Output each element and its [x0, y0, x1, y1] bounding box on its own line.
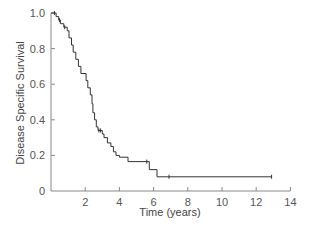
x-tick-label: 4: [116, 196, 122, 208]
x-tick-label: 10: [216, 196, 228, 208]
y-axis-title: Disease Specific Survival: [14, 41, 26, 165]
survival-curve: [51, 13, 272, 177]
x-tick-label: 14: [284, 196, 296, 208]
x-tick-label: 12: [250, 196, 262, 208]
kaplan-meier-chart: 00.20.40.60.81.0 2468101214 Time (years)…: [0, 0, 311, 229]
survival-step-line: [51, 13, 272, 177]
y-tick-label: 0: [39, 185, 45, 197]
y-tick-label: 0.8: [30, 43, 45, 55]
x-axis: 2468101214: [51, 187, 297, 208]
y-tick-label: 0.4: [30, 114, 45, 126]
x-tick-label: 2: [82, 196, 88, 208]
censor-marks: [54, 11, 271, 179]
y-tick-label: 1.0: [30, 7, 45, 19]
y-tick-label: 0.2: [30, 149, 45, 161]
y-tick-label: 0.6: [30, 78, 45, 90]
y-axis: 00.20.40.60.81.0: [30, 7, 55, 197]
x-axis-title: Time (years): [139, 206, 200, 218]
